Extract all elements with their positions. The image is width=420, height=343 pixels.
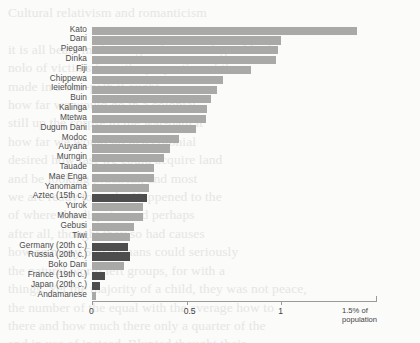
x-axis-unit-line1: 1.5% of bbox=[342, 306, 377, 315]
bar-nonstate bbox=[92, 184, 149, 192]
bar-nonstate bbox=[92, 292, 96, 300]
x-axis-unit-label: 1.5% ofpopulation bbox=[342, 306, 377, 324]
bar-nonstate bbox=[92, 223, 134, 231]
bar-state bbox=[92, 243, 128, 251]
bar-row: Dinka bbox=[0, 55, 420, 65]
x-axis-tick-label: 0 bbox=[89, 306, 94, 316]
bar-nonstate bbox=[92, 115, 206, 123]
category-label: Andamanese bbox=[38, 290, 87, 300]
category-label: Dugum Dani bbox=[40, 123, 87, 133]
bar-nonstate bbox=[92, 36, 281, 44]
bar-nonstate bbox=[92, 262, 124, 270]
bar-nonstate bbox=[92, 76, 223, 84]
bar-row: Kato bbox=[0, 26, 420, 36]
bar-state bbox=[92, 272, 105, 280]
bar-nonstate bbox=[92, 27, 357, 35]
bar-state bbox=[92, 194, 147, 202]
bar-row: Ieiefolmin bbox=[0, 85, 420, 95]
bar-nonstate bbox=[92, 164, 154, 172]
bar-nonstate bbox=[92, 144, 170, 152]
bar-state bbox=[92, 252, 130, 260]
bar-nonstate bbox=[92, 95, 211, 103]
bar-nonstate bbox=[92, 66, 251, 74]
bar-nonstate bbox=[92, 125, 196, 133]
bar-nonstate bbox=[92, 203, 143, 211]
category-label: Fiji bbox=[76, 64, 87, 74]
bar-nonstate bbox=[92, 135, 179, 143]
bar-row: Andamanese bbox=[0, 291, 420, 301]
bar-chart: KatoDaniPieganDinkaFijiChippewaIeiefolmi… bbox=[0, 0, 420, 343]
x-axis-tick bbox=[281, 301, 282, 305]
bar-row: Piegan bbox=[0, 46, 420, 56]
category-label: Japan (20th c.) bbox=[31, 280, 87, 290]
x-axis-tick-label: 0.5 bbox=[184, 306, 196, 316]
x-axis-unit-line2: population bbox=[342, 315, 377, 324]
bar-nonstate bbox=[92, 213, 143, 221]
bar-nonstate bbox=[92, 233, 130, 241]
x-axis-line bbox=[92, 301, 376, 302]
category-label: Tiwi bbox=[72, 231, 87, 241]
bar-row: Aztec (15th c.) bbox=[0, 193, 420, 203]
bar-nonstate bbox=[92, 105, 207, 113]
bar-row: Gebusi bbox=[0, 222, 420, 232]
bar-nonstate bbox=[92, 86, 217, 94]
bar-state bbox=[92, 282, 100, 290]
x-axis-tick-label: 1 bbox=[278, 306, 283, 316]
category-label: Mae Enga bbox=[49, 172, 87, 182]
bar-nonstate bbox=[92, 154, 164, 162]
bar-nonstate bbox=[92, 56, 276, 64]
x-axis-tick bbox=[376, 296, 377, 302]
x-axis-tick bbox=[92, 301, 93, 305]
bar-nonstate bbox=[92, 46, 278, 54]
bar-nonstate bbox=[92, 174, 154, 182]
x-axis-tick bbox=[187, 301, 188, 305]
